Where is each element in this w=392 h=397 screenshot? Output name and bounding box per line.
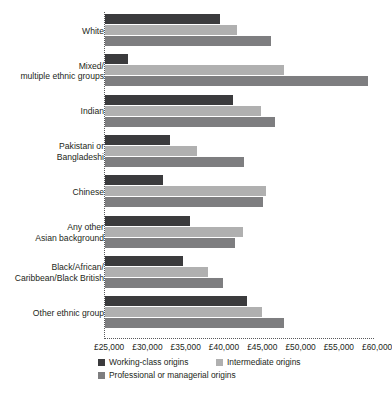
tick-label: £55,000 xyxy=(324,341,354,353)
x-axis-tick-labels: £25,000£30,000£35,000£40,000£45,000£50,0… xyxy=(0,341,383,355)
category-label: Mixed/ multiple ethnic groups xyxy=(4,61,104,82)
tick-label: £35,000 xyxy=(171,341,201,353)
legend-item-working-class: Working-class origins xyxy=(98,357,216,368)
bar-stack xyxy=(105,216,243,248)
bar-professional xyxy=(105,76,368,86)
bar-professional xyxy=(105,117,275,127)
tick-label: £50,000 xyxy=(285,341,315,353)
bar-stack xyxy=(105,54,368,86)
bar-professional xyxy=(105,278,223,288)
legend-label: Working-class origins xyxy=(109,357,188,368)
bar-working xyxy=(105,95,233,105)
category-label: Indian xyxy=(4,106,104,116)
bar-stack xyxy=(105,256,223,288)
bar-working xyxy=(105,256,183,266)
bar-intermediate xyxy=(105,307,262,317)
bar-professional xyxy=(105,197,263,207)
x-axis-line xyxy=(104,338,374,339)
category-label: Pakistani or Bangladeshi xyxy=(4,141,104,162)
bar-stack xyxy=(105,175,266,207)
tick-label: £40,000 xyxy=(209,341,239,353)
legend-item-professional: Professional or managerial origins xyxy=(98,370,236,381)
bar-intermediate xyxy=(105,186,266,196)
bar-professional xyxy=(105,36,271,46)
category-label: Black/African/ Caribbean/Black British xyxy=(4,262,104,283)
bar-intermediate xyxy=(105,146,197,156)
legend-row-1: Working-class origins Intermediate origi… xyxy=(98,357,383,370)
bar-intermediate xyxy=(105,106,261,116)
tick-label: £30,000 xyxy=(132,341,162,353)
bar-intermediate xyxy=(105,25,237,35)
legend-swatch-icon xyxy=(216,359,223,366)
plot-area: WhiteMixed/ multiple ethnic groupsIndian… xyxy=(0,0,383,340)
bar-working xyxy=(105,14,220,24)
bar-intermediate xyxy=(105,267,208,277)
bar-working xyxy=(105,296,247,306)
legend-swatch-icon xyxy=(98,359,105,366)
bar-intermediate xyxy=(105,65,284,75)
legend-label: Professional or managerial origins xyxy=(109,370,236,381)
category-label: Any other Asian background xyxy=(4,222,104,243)
bar-intermediate xyxy=(105,227,243,237)
bar-stack xyxy=(105,296,284,328)
bar-stack xyxy=(105,95,275,127)
bar-working xyxy=(105,175,163,185)
tick-label: £60,000 xyxy=(362,341,392,353)
category-label: Chinese xyxy=(4,187,104,197)
category-label: White xyxy=(4,26,104,36)
legend-swatch-icon xyxy=(98,372,105,379)
bar-working xyxy=(105,54,128,64)
bar-professional xyxy=(105,238,235,248)
chart-legend: Working-class origins Intermediate origi… xyxy=(98,357,383,383)
tick-label: £25,000 xyxy=(94,341,124,353)
bar-working xyxy=(105,216,190,226)
legend-item-intermediate: Intermediate origins xyxy=(216,357,301,368)
tick-label: £45,000 xyxy=(247,341,277,353)
bar-professional xyxy=(105,318,284,328)
bar-working xyxy=(105,135,170,145)
legend-label: Intermediate origins xyxy=(227,357,301,368)
bar-stack xyxy=(105,14,271,46)
bar-stack xyxy=(105,135,244,167)
bar-professional xyxy=(105,157,244,167)
category-label: Other ethnic group xyxy=(4,308,104,318)
legend-row-2: Professional or managerial origins xyxy=(98,370,383,383)
